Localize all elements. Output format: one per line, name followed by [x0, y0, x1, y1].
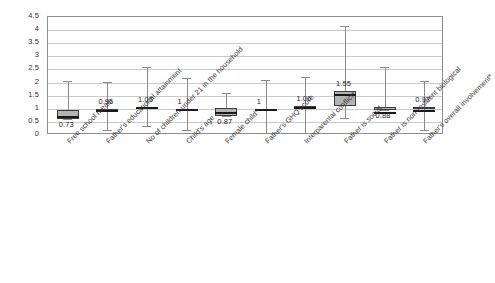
y-axis-tick-label: 1 [0, 104, 42, 112]
whisker-cap-upper [222, 93, 231, 94]
whisker-cap-upper [182, 78, 191, 79]
value-label: 1.55 [336, 80, 351, 88]
y-axis-tick-label: 3 [0, 51, 42, 59]
x-axis-category-labels: Free school mealsFather's educational at… [0, 134, 465, 283]
y-axis-tick-label: 0.5 [0, 117, 42, 125]
whisker-cap-lower [142, 126, 151, 127]
whisker-cap-upper [103, 82, 112, 83]
median-line [57, 116, 79, 118]
whisker-line [266, 80, 267, 132]
y-axis-tick-label: 2.5 [0, 64, 42, 72]
median-line [215, 112, 237, 114]
y-axis-tick-label: 3.5 [0, 38, 42, 46]
box-rect [57, 110, 79, 119]
whisker-cap-upper [340, 26, 349, 27]
whisker-cap-upper [261, 80, 270, 81]
y-axis-tick-label: 4.5 [0, 12, 42, 20]
whisker-cap-lower [182, 130, 191, 131]
whisker-cap-upper [380, 67, 389, 68]
y-axis-tick-label: 4 [0, 25, 42, 33]
value-label: 0.73 [59, 121, 74, 129]
y-axis-tick-label: 2 [0, 78, 42, 86]
whisker-cap-upper [63, 81, 72, 82]
y-axis-tick-label: 1.5 [0, 91, 42, 99]
box-plot-series: 0.73 [48, 17, 88, 133]
whisker-line [385, 67, 386, 110]
whisker-cap-upper [301, 77, 310, 78]
value-label: 0.87 [217, 118, 232, 126]
whisker-cap-lower [340, 118, 349, 119]
whisker-cap-lower [420, 130, 429, 131]
whisker-cap-upper [142, 67, 151, 68]
value-label: 1 [257, 98, 261, 106]
whisker-cap-upper [420, 81, 429, 82]
